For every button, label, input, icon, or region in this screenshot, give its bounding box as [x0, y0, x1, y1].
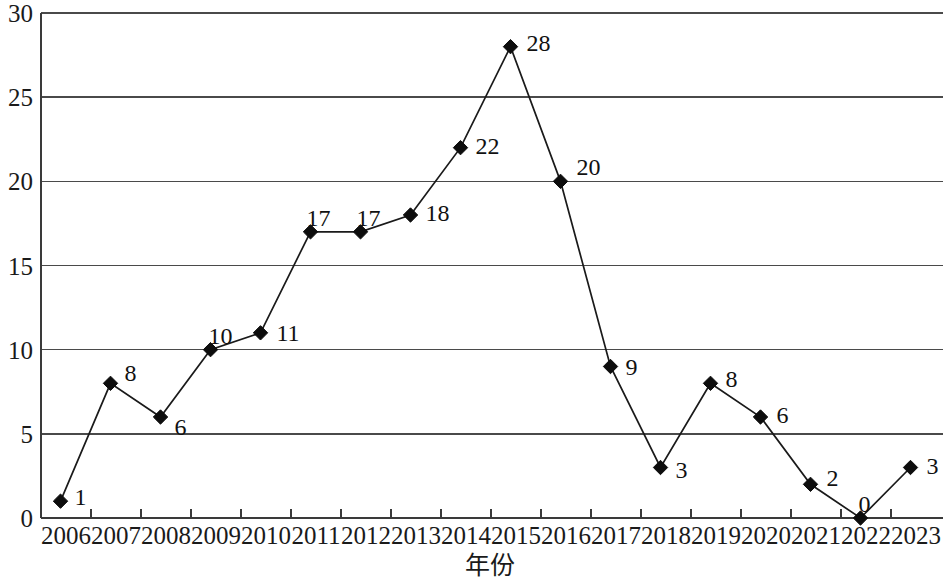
y-axis-tick-label: 15: [8, 253, 33, 280]
x-axis-tick-marks: [91, 509, 891, 518]
data-point-marker: [253, 326, 267, 340]
data-point-marker: [403, 208, 417, 222]
data-point-marker: [703, 376, 717, 390]
data-point-label: 20: [577, 154, 601, 180]
x-axis-tick-label: 2010: [241, 522, 291, 549]
x-axis-tick-label: 2011: [291, 522, 340, 549]
data-point-label: 22: [476, 133, 500, 159]
data-point-label: 18: [426, 200, 450, 226]
data-point-label: 3: [676, 457, 688, 483]
data-point-label: 10: [209, 323, 233, 349]
data-point-label: 0: [859, 491, 871, 517]
data-point-marker: [503, 39, 517, 53]
x-axis-tick-label: 2021: [791, 522, 841, 549]
data-point-marker: [653, 460, 667, 474]
data-point-label: 2: [827, 465, 839, 491]
data-point-marker: [153, 410, 167, 424]
data-point-marker: [453, 140, 467, 154]
data-point-marker: [803, 477, 817, 491]
data-point-marker: [753, 410, 767, 424]
y-axis-tick-label: 0: [21, 505, 34, 532]
series-line-group: [61, 47, 911, 518]
data-point-label: 3: [927, 453, 939, 479]
data-point-marker: [553, 174, 567, 188]
y-axis-tick-label: 30: [8, 0, 33, 27]
x-axis-tick-label: 2012: [341, 522, 391, 549]
line-chart: 051015202530 200620072008200920102011201…: [0, 0, 943, 581]
x-axis-tick-label: 2008: [141, 522, 191, 549]
series-line: [61, 47, 911, 518]
data-point-marker: [603, 359, 617, 373]
data-point-marker: [103, 376, 117, 390]
y-axis-tick-label: 5: [21, 421, 34, 448]
x-axis-tick-label: 2019: [691, 522, 741, 549]
gridlines-group: [41, 13, 943, 518]
data-point-labels: 18610111717182228209386203: [75, 30, 939, 517]
data-point-label: 17: [357, 205, 381, 231]
x-axis-tick-label: 2016: [541, 522, 591, 549]
x-axis-tick-label: 2018: [641, 522, 691, 549]
data-point-label: 11: [277, 320, 300, 346]
data-point-marker: [53, 494, 67, 508]
chart-canvas: 051015202530 200620072008200920102011201…: [0, 0, 943, 581]
y-axis-tick-label: 25: [8, 84, 33, 111]
data-point-label: 6: [175, 414, 187, 440]
data-point-label: 8: [125, 360, 137, 386]
x-axis-tick-label: 2022: [841, 522, 891, 549]
x-axis-tick-label: 2007: [91, 522, 141, 549]
data-point-label: 1: [75, 484, 87, 510]
x-axis-title: 年份: [465, 552, 515, 579]
data-point-label: 6: [777, 402, 789, 428]
y-axis-tick-label: 20: [8, 168, 33, 195]
x-axis-tick-label: 2009: [191, 522, 241, 549]
x-axis-tick-label: 2017: [591, 522, 641, 549]
data-point-markers: [53, 39, 917, 525]
data-point-label: 28: [527, 30, 551, 56]
x-axis-tick-labels: 2006200720082009201020112012201320142015…: [41, 522, 941, 549]
x-axis-tick-label: 2014: [441, 522, 492, 549]
y-axis-tick-labels: 051015202530: [8, 0, 33, 532]
data-point-label: 9: [626, 354, 638, 380]
data-point-label: 17: [307, 205, 331, 231]
x-axis-tick-label: 2020: [741, 522, 791, 549]
x-axis-tick-label: 2015: [491, 522, 541, 549]
x-axis-tick-label: 2023: [891, 522, 941, 549]
data-point-label: 8: [726, 366, 738, 392]
x-axis-tick-label: 2013: [391, 522, 441, 549]
y-axis-tick-label: 10: [8, 337, 33, 364]
x-axis-tick-label: 2006: [41, 522, 91, 549]
